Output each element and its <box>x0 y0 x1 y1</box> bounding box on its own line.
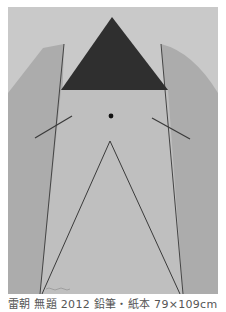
drawing <box>8 7 218 294</box>
artwork-image <box>8 7 218 294</box>
artwork-caption: 雷朝 無題 2012 鉛筆・紙本 79×109cm <box>8 298 226 312</box>
